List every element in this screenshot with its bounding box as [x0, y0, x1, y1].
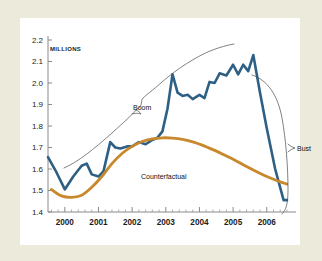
x-tick-label: 2005: [224, 218, 243, 227]
y-tick-label: 1.7: [32, 143, 44, 152]
annotation-boom: Boom: [133, 104, 151, 111]
chart-card: MILLIONS 1.41.51.61.71.81.92.02.12.22000…: [20, 18, 300, 245]
chart-figure: MILLIONS 1.41.51.61.71.81.92.02.12.22000…: [0, 0, 322, 261]
x-tick-label: 2003: [157, 218, 176, 227]
y-tick-label: 1.9: [32, 100, 44, 109]
x-tick-label: 2000: [56, 218, 75, 227]
y-tick-label: 2.0: [32, 79, 44, 88]
y-tick-label: 2.1: [32, 57, 44, 66]
y-tick-label: 1.8: [32, 122, 44, 131]
x-tick-label: 2001: [89, 218, 108, 227]
axes-group: [48, 36, 296, 212]
annotation-counterfactual: Counterfactual: [141, 173, 187, 180]
x-tick-label: 2002: [123, 218, 142, 227]
annotation-bust: Bust: [297, 145, 311, 152]
y-tick-label: 1.4: [32, 208, 44, 217]
brace-bust-nib: [288, 144, 295, 152]
y-tick-label: 1.6: [32, 165, 44, 174]
chart-plot-area: 1.41.51.61.71.81.92.02.12.22000200120022…: [20, 18, 300, 245]
brace-annotations-group: [64, 44, 295, 214]
y-tick-label: 2.2: [32, 36, 44, 45]
x-tick-label: 2004: [190, 218, 209, 227]
series-line-counterfactual: [51, 138, 287, 198]
y-tick-label: 1.5: [32, 186, 44, 195]
x-tick-label: 2006: [258, 218, 277, 227]
